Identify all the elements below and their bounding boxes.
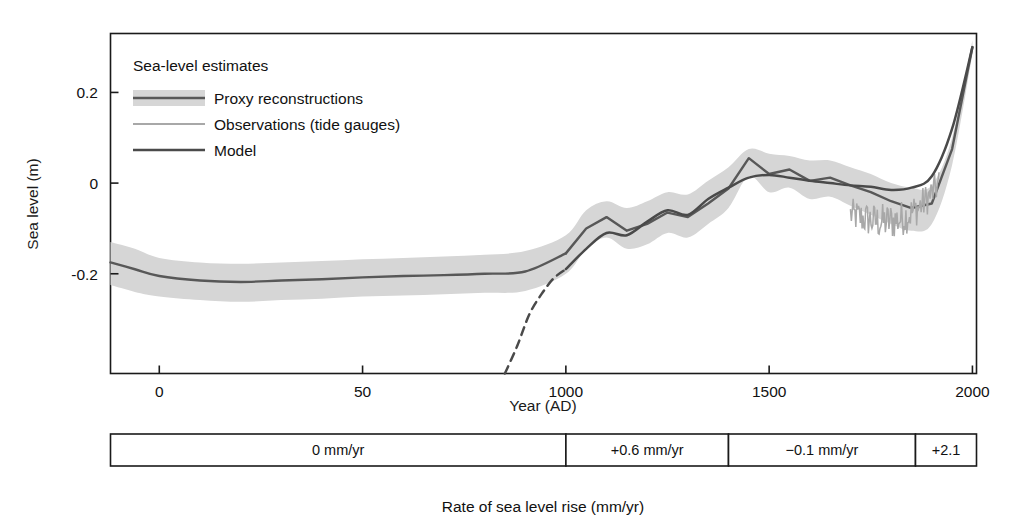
sea-level-chart: 0.2 0 -0.2 Sea level (m) 050100015002000…: [0, 0, 1022, 527]
rate-bar-cell-label: 0 mm/yr: [312, 442, 365, 458]
rate-bar-cell-label: −0.1 mm/yr: [786, 442, 859, 458]
sea-level-figure: 0.2 0 -0.2 Sea level (m) 050100015002000…: [0, 0, 1022, 527]
rate-bar-cell-label: +0.6 mm/yr: [611, 442, 684, 458]
legend-title: Sea-level estimates: [133, 57, 269, 74]
ytick-label: 0.2: [76, 84, 98, 101]
y-axis-label: Sea level (m): [24, 158, 41, 249]
legend-label-proxy: Proxy reconstructions: [214, 90, 363, 107]
legend-label-model: Model: [214, 142, 256, 159]
rate-bar-caption: Rate of sea level rise (mm/yr): [442, 498, 644, 515]
x-axis-label: Year (AD): [509, 397, 576, 414]
legend-label-observations: Observations (tide gauges): [214, 116, 400, 133]
xtick-label: 50: [354, 383, 372, 400]
xtick-label: 2000: [955, 383, 990, 400]
xtick-label: 0: [155, 383, 164, 400]
xtick-label: 1500: [752, 383, 787, 400]
legend-entry-proxy: Proxy reconstructions: [133, 90, 363, 107]
rate-bar: 0 mm/yr+0.6 mm/yr−0.1 mm/yr+2.1: [111, 434, 977, 466]
ytick-label: 0: [89, 175, 98, 192]
rate-bar-cell-label: +2.1: [932, 442, 961, 458]
ytick-label: -0.2: [71, 266, 98, 283]
